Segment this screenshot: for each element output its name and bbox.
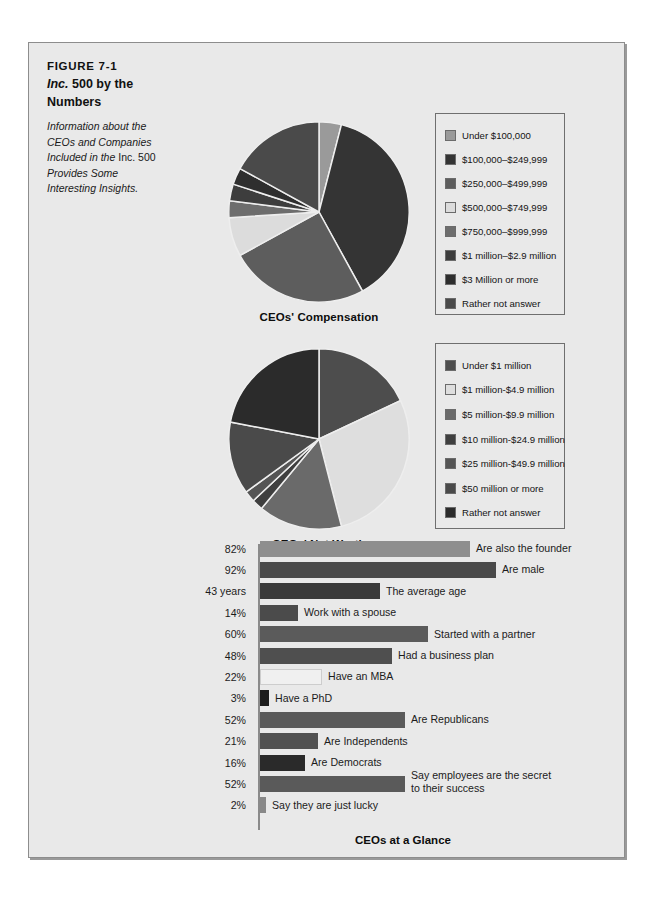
bar-value-label: 48% bbox=[39, 650, 246, 662]
legend-item-label: $750,000–$999,999 bbox=[462, 226, 547, 237]
bar bbox=[260, 626, 428, 642]
bar-category-label: Started with a partner bbox=[434, 628, 535, 641]
figure-caption: FIGURE 7-1 Inc. 500 by the Numbers Infor… bbox=[47, 57, 222, 197]
figure-description-line-2: CEOs and Companies bbox=[47, 135, 222, 151]
bar-category-label: Work with a spouse bbox=[304, 606, 396, 619]
bar-chart-row: 14%Work with a spouse bbox=[39, 602, 614, 623]
legend-item: $5 million-$9.9 million bbox=[445, 402, 554, 427]
ceos-net-worth-pie-wrapper: CEOs' Net Worth bbox=[226, 346, 412, 550]
figure-title-line1: Inc. 500 by the bbox=[47, 75, 222, 93]
bar-value-label: 82% bbox=[39, 543, 246, 555]
legend-swatch-icon bbox=[445, 226, 456, 237]
bar-category-label: Are Democrats bbox=[311, 756, 382, 769]
legend-item: $100,000–$249,999 bbox=[445, 147, 554, 171]
legend-item: Rather not answer bbox=[445, 501, 554, 526]
bar-value-label: 43 years bbox=[39, 585, 246, 597]
legend-item: $500,000–$749,999 bbox=[445, 195, 554, 219]
bar-chart-row: 52%Are Republicans bbox=[39, 709, 614, 730]
bar-category-label: Are Independents bbox=[324, 735, 408, 748]
figure-title-rest: 500 by the bbox=[69, 77, 134, 91]
legend-swatch-icon bbox=[445, 130, 456, 141]
legend-item-label: $250,000–$499,999 bbox=[462, 178, 547, 189]
legend-swatch-icon bbox=[445, 202, 456, 213]
bar-chart-row: 2%Say they are just lucky bbox=[39, 795, 614, 816]
bar bbox=[260, 605, 298, 621]
legend-item-label: $10 million-$24.9 million bbox=[462, 434, 565, 445]
legend-item: $10 million-$24.9 million bbox=[445, 427, 554, 452]
figure-description: Information about the CEOs and Companies… bbox=[47, 119, 222, 197]
bar-value-label: 3% bbox=[39, 692, 246, 704]
bar-value-label: 92% bbox=[39, 564, 246, 576]
bar bbox=[260, 648, 392, 664]
ceos-at-a-glance-bar-chart: 82%Are also the founder92%Are male43 yea… bbox=[39, 538, 614, 848]
legend-item-label: $50 million or more bbox=[462, 483, 544, 494]
ceos-net-worth-pie-chart bbox=[226, 346, 412, 532]
bar-category-label: Are Republicans bbox=[411, 713, 489, 726]
legend-item: $750,000–$999,999 bbox=[445, 219, 554, 243]
legend-item: $3 Million or more bbox=[445, 267, 554, 291]
bar bbox=[260, 797, 266, 813]
figure-description-line-5: Interesting Insights. bbox=[47, 181, 222, 197]
bar-value-label: 60% bbox=[39, 628, 246, 640]
bar bbox=[260, 690, 269, 706]
legend-item-label: $25 million-$49.9 million bbox=[462, 458, 565, 469]
ceos-compensation-pie-wrapper: CEOs' Compensation bbox=[226, 119, 412, 323]
bar-value-label: 2% bbox=[39, 799, 246, 811]
bar bbox=[260, 669, 322, 685]
legend-item: Rather not answer bbox=[445, 291, 554, 315]
legend-item-label: Rather not answer bbox=[462, 507, 540, 518]
bar bbox=[260, 733, 318, 749]
figure-title-italic: Inc. bbox=[47, 77, 69, 91]
bar bbox=[260, 562, 496, 578]
figure-description-line-3a: Included in the bbox=[47, 151, 118, 163]
figure-description-line-3: Included in the Inc. 500 bbox=[47, 150, 222, 166]
legend-swatch-icon bbox=[445, 154, 456, 165]
legend-item: Under $100,000 bbox=[445, 123, 554, 147]
ceos-compensation-legend: Under $100,000$100,000–$249,999$250,000–… bbox=[435, 113, 565, 315]
ceos-compensation-title: CEOs' Compensation bbox=[226, 311, 412, 323]
legend-swatch-icon bbox=[445, 360, 456, 371]
bar-category-label: Are male bbox=[502, 563, 544, 576]
figure-description-line-3b: Inc. 500 bbox=[118, 151, 155, 163]
bar-category-label: Are also the founder bbox=[476, 542, 571, 555]
legend-swatch-icon bbox=[445, 178, 456, 189]
legend-item: $1 million-$4.9 million bbox=[445, 378, 554, 403]
ceos-compensation-pie-chart bbox=[226, 119, 412, 305]
bar-chart-row: 3%Have a PhD bbox=[39, 688, 614, 709]
bar-category-label: Say they are just lucky bbox=[272, 799, 378, 812]
figure-description-line-1: Information about the bbox=[47, 119, 222, 135]
bar bbox=[260, 712, 405, 728]
figure-number: FIGURE 7-1 bbox=[47, 57, 222, 75]
bar-chart-row: 92%Are male bbox=[39, 559, 614, 580]
legend-swatch-icon bbox=[445, 458, 456, 469]
bar-chart-row: 60%Started with a partner bbox=[39, 624, 614, 645]
legend-swatch-icon bbox=[445, 298, 456, 309]
legend-item: $50 million or more bbox=[445, 476, 554, 501]
bar-category-label: Had a business plan bbox=[398, 649, 494, 662]
legend-swatch-icon bbox=[445, 409, 456, 420]
bar-value-label: 16% bbox=[39, 757, 246, 769]
legend-item-label: $500,000–$749,999 bbox=[462, 202, 547, 213]
bar-value-label: 52% bbox=[39, 714, 246, 726]
bar-chart-rows: 82%Are also the founder92%Are male43 yea… bbox=[39, 538, 614, 816]
bar-value-label: 52% bbox=[39, 778, 246, 790]
bar-chart-row: 48%Had a business plan bbox=[39, 645, 614, 666]
legend-item-label: Rather not answer bbox=[462, 298, 540, 309]
legend-swatch-icon bbox=[445, 507, 456, 518]
legend-item-label: Under $100,000 bbox=[462, 130, 531, 141]
bar-chart-row: 82%Are also the founder bbox=[39, 538, 614, 559]
bar bbox=[260, 755, 305, 771]
bar-category-label: Have a PhD bbox=[275, 692, 332, 705]
bar-chart-row: 52%Say employees are the secretto their … bbox=[39, 773, 614, 794]
bar-value-label: 14% bbox=[39, 607, 246, 619]
legend-swatch-icon bbox=[445, 384, 456, 395]
legend-item-label: $1 million-$4.9 million bbox=[462, 384, 554, 395]
bar-chart-row: 22%Have an MBA bbox=[39, 666, 614, 687]
bar-category-label: Say employees are the secretto their suc… bbox=[411, 769, 551, 794]
figure-description-line-4: Provides Some bbox=[47, 166, 222, 182]
legend-item: Under $1 million bbox=[445, 353, 554, 378]
bar-chart-row: 21%Are Independents bbox=[39, 731, 614, 752]
bar-category-label-line2: to their success bbox=[411, 782, 551, 795]
figure-title-line2: Numbers bbox=[47, 93, 222, 111]
legend-item: $25 million-$49.9 million bbox=[445, 451, 554, 476]
